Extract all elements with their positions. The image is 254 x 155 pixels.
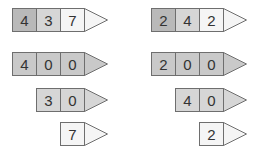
arrow-tip-icon	[84, 122, 108, 146]
digit: 0	[36, 52, 61, 76]
digit: 0	[60, 88, 85, 112]
right-ones-card: 2	[199, 122, 247, 146]
digit: 3	[36, 88, 61, 112]
arrow-tip-icon	[223, 122, 247, 146]
arrow-tip-icon	[223, 88, 247, 112]
ones-digit: 2	[199, 8, 224, 32]
right-hundreds-card: 2 0 0	[151, 52, 247, 76]
digit: 2	[199, 122, 224, 146]
ones-digit: 7	[60, 8, 85, 32]
left-tens-card: 3 0	[36, 88, 108, 112]
right-number-card: 2 4 2	[151, 8, 247, 32]
tens-digit: 3	[36, 8, 61, 32]
digit: 2	[151, 52, 176, 76]
arrow-tip-icon	[84, 8, 108, 32]
hundreds-digit: 2	[151, 8, 176, 32]
digit: 4	[12, 52, 37, 76]
arrow-tip-icon	[223, 52, 247, 76]
hundreds-digit: 4	[12, 8, 37, 32]
left-ones-card: 7	[60, 122, 108, 146]
left-hundreds-card: 4 0 0	[12, 52, 108, 76]
digit: 0	[199, 52, 224, 76]
digit: 7	[60, 122, 85, 146]
arrow-tip-icon	[223, 8, 247, 32]
tens-digit: 4	[175, 8, 200, 32]
digit: 4	[175, 88, 200, 112]
right-tens-card: 4 0	[175, 88, 247, 112]
digit: 0	[199, 88, 224, 112]
digit: 0	[175, 52, 200, 76]
left-number-card: 4 3 7	[12, 8, 108, 32]
digit: 0	[60, 52, 85, 76]
arrow-tip-icon	[84, 52, 108, 76]
arrow-tip-icon	[84, 88, 108, 112]
